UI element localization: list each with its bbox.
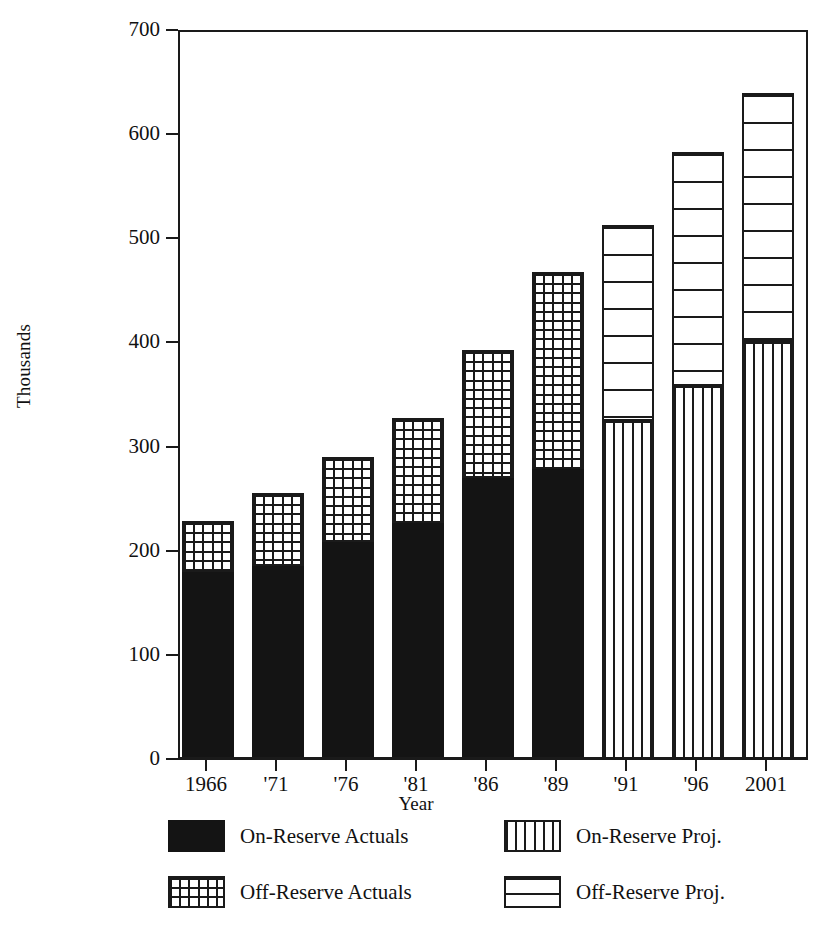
bar-1966 bbox=[182, 521, 234, 759]
y-axis-tick-label: 100 bbox=[60, 644, 160, 665]
y-axis-tick-label: 600 bbox=[60, 123, 160, 144]
y-axis-tick bbox=[166, 29, 178, 31]
bar-96 bbox=[672, 152, 724, 759]
x-axis-tick bbox=[415, 760, 417, 771]
legend-item-label: On-Reserve Proj. bbox=[576, 821, 722, 851]
bar-segment-on-act bbox=[392, 523, 444, 759]
bar-71 bbox=[252, 493, 304, 759]
bar-81 bbox=[392, 418, 444, 759]
bar-segment-off-proj bbox=[672, 152, 724, 386]
plot-area bbox=[178, 30, 808, 759]
legend-item-label: On-Reserve Actuals bbox=[240, 821, 409, 851]
y-axis-tick-label: 700 bbox=[60, 19, 160, 40]
y-axis-tick bbox=[166, 550, 178, 552]
x-axis-tick bbox=[485, 760, 487, 771]
cross-hatch-swatch bbox=[168, 876, 225, 908]
bar-segment-on-proj bbox=[672, 386, 724, 759]
y-axis-tick bbox=[166, 133, 178, 135]
vertical-lines-swatch bbox=[504, 820, 561, 852]
bar-segment-off-act bbox=[462, 350, 514, 478]
bar-segment-off-act bbox=[532, 272, 584, 470]
y-axis-title: Thousands bbox=[13, 291, 41, 441]
y-axis-tick bbox=[166, 446, 178, 448]
bar-segment-on-act bbox=[182, 572, 234, 759]
y-axis-tick-label: 300 bbox=[60, 436, 160, 457]
bar-segment-on-act bbox=[462, 478, 514, 759]
bar-segment-off-act bbox=[252, 493, 304, 566]
x-axis-tick bbox=[275, 760, 277, 771]
y-axis-tick bbox=[166, 758, 178, 760]
bar-91 bbox=[602, 225, 654, 759]
x-axis-title: Year bbox=[0, 793, 832, 815]
y-axis-tick-label: 400 bbox=[60, 331, 160, 352]
bar-segment-off-proj bbox=[742, 93, 794, 343]
y-axis-tick-label: 500 bbox=[60, 227, 160, 248]
y-axis-tick bbox=[166, 237, 178, 239]
x-axis-line bbox=[178, 757, 808, 760]
bar-segment-off-act bbox=[392, 418, 444, 522]
bar-segment-on-proj bbox=[602, 421, 654, 759]
bar-86 bbox=[462, 350, 514, 759]
y-axis-tick bbox=[166, 341, 178, 343]
bar-segment-off-act bbox=[322, 457, 374, 542]
x-axis-tick bbox=[555, 760, 557, 771]
y-axis-tick-label: 200 bbox=[60, 540, 160, 561]
y-axis-tick-label: 0 bbox=[60, 748, 160, 769]
x-axis-tick bbox=[625, 760, 627, 771]
x-axis-tick bbox=[695, 760, 697, 771]
horizontal-lines-swatch bbox=[504, 876, 561, 908]
legend-item-label: Off-Reserve Actuals bbox=[240, 877, 412, 907]
bar-76 bbox=[322, 457, 374, 759]
bar-segment-off-act bbox=[182, 521, 234, 572]
bar-2001 bbox=[742, 93, 794, 760]
x-axis-tick bbox=[205, 760, 207, 771]
bar-segment-on-act bbox=[322, 542, 374, 759]
bar-segment-off-proj bbox=[602, 225, 654, 421]
chart-canvas: Thousands 0100200300400500600700 1966'71… bbox=[0, 0, 832, 933]
x-axis-tick bbox=[345, 760, 347, 771]
bar-segment-on-act bbox=[252, 566, 304, 759]
bar-89 bbox=[532, 272, 584, 759]
solid-black-swatch bbox=[168, 820, 225, 852]
bar-segment-on-proj bbox=[742, 342, 794, 759]
x-axis-tick bbox=[765, 760, 767, 771]
y-axis-tick bbox=[166, 654, 178, 656]
chart-legend: On-Reserve ActualsOn-Reserve Proj.Off-Re… bbox=[168, 818, 832, 922]
legend-item-label: Off-Reserve Proj. bbox=[576, 877, 725, 907]
bar-segment-on-act bbox=[532, 469, 584, 759]
